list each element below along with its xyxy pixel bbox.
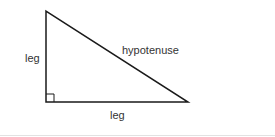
bottom-divider bbox=[0, 135, 275, 136]
hypotenuse-label: hypotenuse bbox=[122, 44, 179, 56]
bottom-leg-label: leg bbox=[110, 109, 125, 121]
triangle-shape bbox=[46, 11, 188, 102]
right-angle-marker bbox=[46, 94, 54, 102]
left-leg-label: leg bbox=[25, 52, 40, 64]
right-triangle-diagram bbox=[0, 0, 275, 137]
